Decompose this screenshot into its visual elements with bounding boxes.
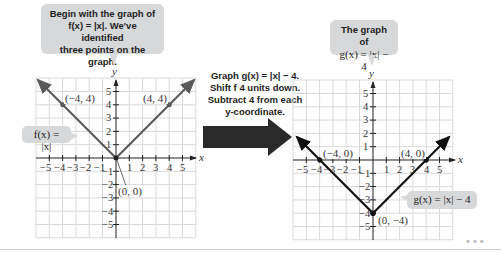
- right-y-axis-label: y: [369, 68, 374, 79]
- tick-label: 1: [384, 164, 389, 175]
- right-axes: [293, 82, 455, 240]
- tick-label: −3: [67, 162, 78, 173]
- graphs-canvas: [0, 0, 501, 259]
- tick-label: −4: [359, 208, 370, 219]
- tick-label: −5: [359, 221, 370, 232]
- tick-label: −3: [359, 194, 370, 205]
- tick-label: 1: [106, 139, 111, 150]
- tick-label: 3: [363, 114, 368, 125]
- bottom-divider: [0, 249, 501, 250]
- point-label-4-4: (4, 4): [142, 92, 168, 104]
- tick-label: 5: [106, 86, 111, 97]
- tick-label: −4: [102, 206, 113, 217]
- tick-label: −4: [54, 162, 65, 173]
- tick-label: 2: [106, 126, 111, 137]
- tick-label: 1: [127, 162, 132, 173]
- tick-label: 2: [397, 164, 402, 175]
- tick-label: 5: [363, 88, 368, 99]
- tick-label: −1: [102, 166, 113, 177]
- tick-label: −5: [297, 164, 308, 175]
- point-label-0-0: (0, 0): [117, 185, 143, 197]
- tick-label: 3: [153, 162, 158, 173]
- origin-leader-line: [117, 160, 126, 186]
- tick-label: 1: [363, 141, 368, 152]
- right-callout-pointer: [368, 55, 376, 66]
- left-x-axis-label: x: [199, 152, 204, 163]
- point-label-0-neg4: (0, −4): [377, 214, 409, 226]
- tick-label: −5: [102, 219, 113, 230]
- tick-label: −1: [359, 168, 370, 179]
- tick-label: 5: [437, 164, 442, 175]
- tick-label: −2: [102, 179, 113, 190]
- point-0-neg4: [370, 210, 376, 216]
- tick-label: 2: [363, 128, 368, 139]
- tick-label: −2: [337, 164, 348, 175]
- tick-label: −5: [40, 162, 51, 173]
- tick-label: −2: [359, 181, 370, 192]
- big-right-arrow-icon: [203, 118, 292, 156]
- tick-label: 4: [106, 99, 111, 110]
- tick-label: 2: [140, 162, 145, 173]
- point-origin: [114, 156, 119, 161]
- more-options-icon[interactable]: •••: [465, 236, 486, 247]
- point-label-neg4-4: (−4, 4): [64, 92, 96, 104]
- g-function-label: g(x) = |x| − 4: [407, 191, 477, 209]
- left-y-axis-label: y: [112, 66, 117, 77]
- point-label-4-0: (4, 0): [400, 147, 426, 159]
- tick-label: 4: [167, 162, 172, 173]
- point-label-neg4-0: (−4, 0): [322, 147, 354, 159]
- tick-label: 3: [410, 164, 415, 175]
- tick-label: 4: [424, 164, 429, 175]
- tick-label: −3: [324, 164, 335, 175]
- tick-label: −3: [102, 192, 113, 203]
- tick-label: 4: [363, 101, 368, 112]
- tick-label: 5: [180, 162, 185, 173]
- f-label-pointer: [70, 132, 78, 140]
- f-function-label: f(x) = |x|: [22, 126, 71, 143]
- tick-label: −2: [80, 162, 91, 173]
- tick-label: −4: [311, 164, 322, 175]
- right-x-axis-label: x: [458, 154, 463, 165]
- tick-label: 3: [106, 112, 111, 123]
